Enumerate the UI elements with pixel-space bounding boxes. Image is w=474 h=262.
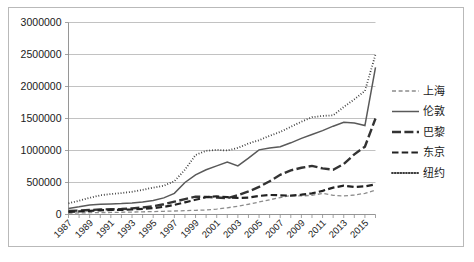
x-tick-label: 2009 — [284, 217, 307, 240]
y-tick-label: 3000000 — [21, 16, 62, 28]
x-tick-label: 2011 — [306, 217, 328, 239]
y-tick-label: 2500000 — [21, 48, 62, 60]
chart-container: 0500000100000015000002000000250000030000… — [0, 0, 474, 262]
line-chart: 0500000100000015000002000000250000030000… — [0, 0, 474, 262]
legend-label-3: 东京 — [423, 145, 445, 159]
x-tick-label: 1991 — [94, 217, 117, 240]
chart-legend: 上海伦敦巴黎东京纽约 — [392, 84, 445, 180]
x-tick-label: 1993 — [115, 217, 138, 240]
x-tick-label: 2007 — [263, 217, 286, 240]
y-axis-tick-labels: 0500000100000015000002000000250000030000… — [21, 16, 62, 220]
legend-label-1: 伦敦 — [423, 104, 445, 118]
series-line-4 — [69, 55, 376, 204]
x-tick-label: 1987 — [51, 217, 74, 240]
y-tick-label: 0 — [56, 208, 62, 220]
y-tick-label: 500000 — [26, 176, 61, 188]
x-tick-label: 2001 — [199, 217, 222, 240]
x-tick-label: 2013 — [326, 217, 349, 240]
x-tick-label: 2003 — [221, 217, 244, 240]
gridlines — [69, 23, 376, 183]
series-line-2 — [69, 119, 376, 211]
y-tick-label: 1500000 — [21, 112, 62, 124]
y-tick-label: 1000000 — [21, 144, 62, 156]
legend-label-4: 纽约 — [423, 166, 445, 180]
y-axis-tick-marks — [65, 23, 69, 215]
legend-label-0: 上海 — [423, 84, 445, 98]
x-tick-label: 1989 — [72, 217, 95, 240]
x-tick-label: 1999 — [178, 217, 201, 240]
x-tick-label: 1995 — [136, 217, 159, 240]
x-tick-label: 2015 — [348, 217, 371, 240]
x-tick-label: 2005 — [242, 217, 265, 240]
x-axis-tick-marks — [69, 215, 376, 219]
x-tick-label: 1997 — [157, 217, 180, 240]
x-axis-tick-labels: 1987198919911993199519971999200120032005… — [51, 217, 370, 240]
series-line-1 — [69, 67, 376, 208]
data-series — [69, 55, 376, 214]
legend-label-2: 巴黎 — [423, 125, 445, 139]
y-tick-label: 2000000 — [21, 80, 62, 92]
